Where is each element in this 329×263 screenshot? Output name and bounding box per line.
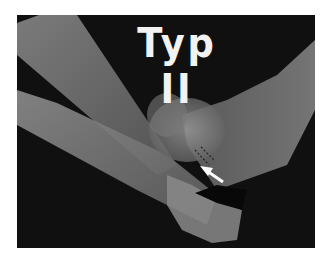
- figure-title: Typ II: [117, 20, 237, 112]
- xray-image: Typ II: [17, 15, 315, 248]
